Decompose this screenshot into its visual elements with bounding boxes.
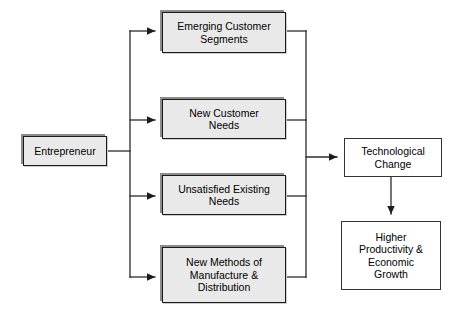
node-unsatisfied-existing-needs: Unsatisfied Existing Needs	[162, 175, 286, 215]
node-new-customer-needs: New Customer Needs	[162, 99, 286, 139]
flow-diagram-canvas: Entrepreneur Emerging Customer Segments …	[0, 0, 464, 317]
node-technological-change-label: Technological Change	[358, 145, 428, 170]
node-new-methods-of-manufacture-and-distribution-label: New Methods of Manufacture & Distributio…	[183, 256, 265, 293]
node-technological-change: Technological Change	[344, 138, 442, 177]
node-entrepreneur-label: Entrepreneur	[31, 145, 98, 157]
node-emerging-customer-segments: Emerging Customer Segments	[162, 12, 286, 53]
node-new-customer-needs-label: New Customer Needs	[186, 107, 261, 132]
node-entrepreneur: Entrepreneur	[23, 136, 107, 166]
node-emerging-customer-segments-label: Emerging Customer Segments	[174, 20, 273, 45]
node-new-methods-of-manufacture-and-distribution: New Methods of Manufacture & Distributio…	[162, 247, 286, 303]
node-unsatisfied-existing-needs-label: Unsatisfied Existing Needs	[175, 183, 273, 208]
node-higher-productivity-economic-growth: Higher Productivity & Economic Growth	[341, 221, 441, 290]
node-higher-productivity-economic-growth-label: Higher Productivity & Economic Growth	[356, 231, 426, 281]
